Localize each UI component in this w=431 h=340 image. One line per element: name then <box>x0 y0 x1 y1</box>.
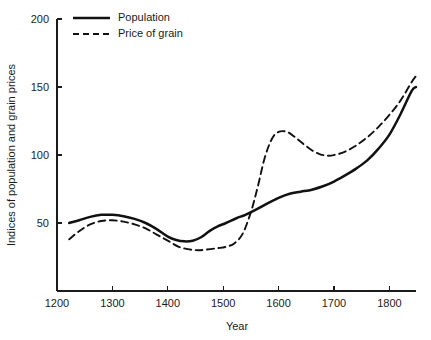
x-tick-label: 1600 <box>266 297 290 309</box>
y-tick-label: 100 <box>31 149 49 161</box>
series-line-population <box>69 87 416 241</box>
y-axis-title: Indices of population and grain prices <box>5 63 17 246</box>
x-tick-label: 1500 <box>211 297 235 309</box>
legend-label-price-of-grain: Price of grain <box>118 27 183 39</box>
x-axis-title: Year <box>226 320 249 332</box>
x-tick-label: 1800 <box>377 297 401 309</box>
x-tick-label: 1400 <box>156 297 180 309</box>
line-chart: 50100150200 1200130014001500160017001800… <box>0 0 431 340</box>
legend-label-population: Population <box>118 11 170 23</box>
y-tick-label: 150 <box>31 81 49 93</box>
x-tick-label: 1300 <box>100 297 124 309</box>
x-tick-label: 1200 <box>45 297 69 309</box>
y-tick-label: 50 <box>37 217 49 229</box>
chart-legend: Population Price of grain <box>73 11 183 39</box>
x-axis-ticks: 1200130014001500160017001800 <box>45 286 402 309</box>
chart-container: 50100150200 1200130014001500160017001800… <box>0 0 431 340</box>
x-tick-label: 1700 <box>322 297 346 309</box>
y-tick-label: 200 <box>31 13 49 25</box>
